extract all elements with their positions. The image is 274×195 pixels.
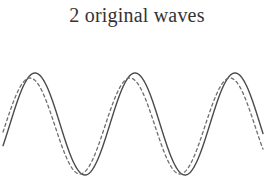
page-title: 2 original waves <box>0 3 274 27</box>
figure-panel: 2 original waves <box>0 0 274 195</box>
wave-plot <box>0 34 274 195</box>
plot-background <box>0 34 274 195</box>
